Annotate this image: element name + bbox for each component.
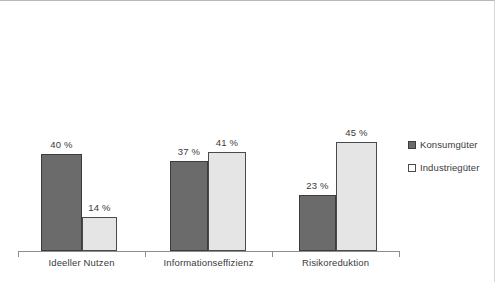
x-axis-label-risikoreduktion: Risikoreduktion — [272, 257, 399, 268]
x-axis-label-ideeller-nutzen: Ideeller Nutzen — [18, 257, 145, 268]
bar-group-risikoreduktion: 23 % 45 % — [299, 9, 398, 251]
bar-value-label: 23 % — [306, 180, 328, 191]
bar-value-label: 37 % — [178, 146, 200, 157]
bar-konsum-risikoreduktion[interactable] — [299, 195, 336, 251]
bar-group-informationseffizienz: 37 % 41 % — [170, 9, 269, 251]
bar-industrie-informationseffizienz[interactable] — [208, 152, 246, 251]
plot-area: 40 % 14 % 37 % 41 % 23 % — [18, 9, 400, 251]
bar-value-label: 41 % — [216, 137, 238, 148]
x-axis-label-informationseffizienz: Informationseffizienz — [145, 257, 272, 268]
bar-konsum-ideeller-nutzen[interactable] — [41, 154, 82, 251]
legend-item-industriegueter[interactable]: Industriegüter — [408, 162, 494, 173]
bar-value-label: 45 % — [345, 127, 367, 138]
bar-konsum-informationseffizienz[interactable] — [170, 161, 208, 251]
bar-wrap-industrie-2: 41 % — [208, 9, 246, 251]
bar-industrie-ideeller-nutzen[interactable] — [82, 217, 117, 251]
bar-chart: 40 % 14 % 37 % 41 % 23 % — [0, 0, 495, 282]
legend-swatch-icon — [408, 141, 416, 149]
legend-label: Konsumgüter — [420, 139, 478, 150]
legend: Konsumgüter Industriegüter — [408, 139, 494, 185]
x-axis-labels: Ideeller Nutzen Informationseffizienz Ri… — [18, 257, 400, 279]
legend-item-konsumgueter[interactable]: Konsumgüter — [408, 139, 494, 150]
bar-wrap-konsum-2: 37 % — [170, 9, 208, 251]
bar-wrap-konsum-1: 40 % — [41, 9, 82, 251]
bar-wrap-industrie-3: 45 % — [336, 9, 377, 251]
bar-wrap-konsum-3: 23 % — [299, 9, 336, 251]
bar-value-label: 40 % — [50, 139, 72, 150]
legend-label: Industriegüter — [420, 162, 480, 173]
bar-industrie-risikoreduktion[interactable] — [336, 142, 377, 251]
bar-wrap-industrie-1: 14 % — [82, 9, 117, 251]
legend-swatch-icon — [408, 164, 416, 172]
x-axis-line — [18, 251, 400, 252]
bar-group-ideeller-nutzen: 40 % 14 % — [41, 9, 140, 251]
bar-value-label: 14 % — [88, 202, 110, 213]
